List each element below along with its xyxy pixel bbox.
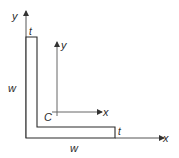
centroid-label: C [44, 111, 52, 123]
thickness-top-label: t [29, 26, 33, 37]
global-x-axis-label: x [162, 132, 169, 144]
width-bottom-label: w [70, 142, 79, 154]
diagram-canvas: y x y x C t t w w [0, 0, 179, 158]
centroid-x-axis-label: x [102, 106, 109, 118]
angle-section-diagram: y x y x C t t w w [0, 0, 179, 158]
angle-section-outline [26, 37, 115, 138]
width-left-label: w [8, 82, 17, 94]
centroid-y-axis-label: y [60, 39, 68, 51]
global-y-axis-label: y [11, 10, 19, 22]
thickness-right-label: t [118, 126, 122, 137]
